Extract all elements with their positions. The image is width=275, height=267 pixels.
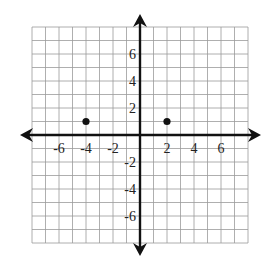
x-tick-label: 2: [164, 141, 171, 156]
coordinate-plane: -6-4-2246 642-2-4-6: [0, 0, 275, 267]
x-tick-label: 6: [218, 141, 225, 156]
data-point: [82, 118, 89, 125]
x-tick-label: 4: [191, 141, 198, 156]
x-tick-label: -2: [107, 141, 119, 156]
axes: [20, 14, 261, 256]
data-point: [163, 118, 170, 125]
y-tick-label: -4: [124, 182, 136, 197]
x-tick-label: -4: [80, 141, 92, 156]
y-tick-label: 2: [129, 101, 136, 116]
x-tick-label: -6: [53, 141, 65, 156]
y-tick-label: 4: [129, 74, 136, 89]
y-tick-label: 6: [129, 47, 136, 62]
y-tick-label: -2: [124, 155, 136, 170]
y-tick-label: -6: [124, 209, 136, 224]
